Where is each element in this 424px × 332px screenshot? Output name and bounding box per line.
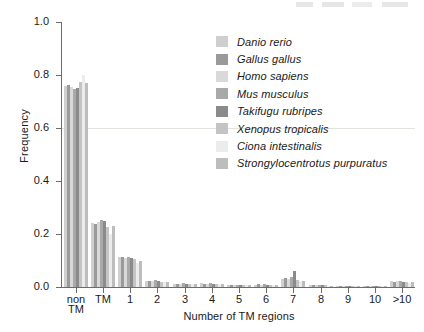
legend-swatch: [216, 88, 228, 99]
y-tick: 0.6: [56, 128, 61, 129]
y-tick-label: 0.2: [34, 227, 49, 239]
legend-label: Takifugu rubripes: [237, 105, 323, 117]
y-tick-label: 0.8: [34, 68, 49, 80]
bar: [112, 226, 115, 287]
bar-group: [64, 22, 88, 287]
legend-swatch: [216, 158, 228, 169]
legend: Danio rerioGallus gallusHomo sapiensMus …: [216, 33, 421, 172]
legend-item-2: Homo sapiens: [216, 68, 421, 85]
bar: [302, 281, 305, 287]
legend-item-7: Strongylocentrotus purpuratus: [216, 155, 421, 172]
bar: [85, 83, 88, 287]
bar: [221, 284, 224, 287]
y-tick: 0.4: [56, 181, 61, 182]
bar: [384, 286, 387, 287]
legend-item-5: Xenopus tropicalis: [216, 120, 421, 137]
y-tick-label: 1.0: [34, 15, 49, 27]
x-tick-label: >10: [382, 294, 422, 304]
legend-item-6: Ciona intestinalis: [216, 137, 421, 154]
legend-swatch: [216, 54, 228, 65]
bar: [275, 285, 278, 287]
bar: [194, 284, 197, 287]
legend-item-3: Mus musculus: [216, 85, 421, 102]
legend-item-4: Takifugu rubripes: [216, 103, 421, 120]
legend-swatch: [216, 141, 228, 152]
legend-label: Ciona intestinalis: [237, 140, 322, 152]
top-edge-artifact: [296, 2, 416, 7]
legend-label: Homo sapiens: [237, 70, 309, 82]
legend-item-1: Gallus gallus: [216, 50, 421, 67]
x-tick-label-line2: TM: [56, 304, 96, 314]
x-axis-spine: [61, 287, 415, 288]
bar: [357, 286, 360, 287]
bar-group: [145, 22, 169, 287]
legend-swatch: [216, 71, 228, 82]
x-axis-title: Number of TM regions: [60, 310, 418, 322]
legend-label: Danio rerio: [237, 36, 292, 48]
bar: [248, 285, 251, 287]
legend-swatch: [216, 106, 228, 117]
y-tick: 1.0: [56, 22, 61, 23]
bar-group: [91, 22, 115, 287]
y-tick-label: 0.6: [34, 121, 49, 133]
bar: [330, 286, 333, 287]
y-axis-spine: [61, 22, 62, 288]
bar-group: [173, 22, 197, 287]
y-tick-label: 0.0: [34, 280, 49, 292]
legend-swatch: [216, 36, 228, 47]
bar: [139, 261, 142, 288]
legend-label: Xenopus tropicalis: [237, 123, 329, 135]
y-axis-title: Frequency: [18, 86, 30, 186]
bar-group: [118, 22, 142, 287]
y-tick: 0.2: [56, 234, 61, 235]
bar: [411, 282, 414, 287]
legend-label: Strongylocentrotus purpuratus: [237, 157, 387, 169]
figure-canvas: Frequency Number of TM regions 0.00.20.4…: [0, 0, 424, 332]
y-tick-label: 0.4: [34, 174, 49, 186]
legend-label: Gallus gallus: [237, 53, 301, 65]
legend-item-0: Danio rerio: [216, 33, 421, 50]
bar: [166, 282, 169, 287]
y-tick: 0.8: [56, 75, 61, 76]
y-tick: 0.0: [56, 287, 61, 288]
legend-label: Mus musculus: [237, 88, 309, 100]
legend-swatch: [216, 123, 228, 134]
